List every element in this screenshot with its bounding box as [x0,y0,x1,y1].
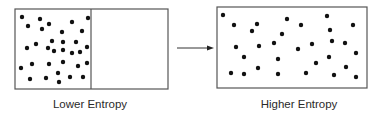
particle-dot [30,62,34,66]
particle-dot [343,41,347,45]
particle-dot [57,80,61,84]
particle-dot [47,22,51,26]
particle-dot [310,42,314,46]
particle-dot [276,57,280,61]
particle-dot [38,17,42,21]
particle-dot [296,47,300,51]
lower-entropy-label: Lower Entropy [30,98,150,110]
particle-dot [344,65,348,69]
particle-dot [20,15,24,19]
particle-dot [327,55,331,59]
particle-dot [242,55,246,59]
particle-dot [332,73,336,77]
particle-dot [50,39,54,43]
particle-dot [330,39,334,43]
particle-dot [80,29,84,33]
particle-dot [44,76,48,80]
particle-dot [46,46,50,50]
particle-dot [76,64,80,68]
particle-dot [68,75,72,79]
particle-dot [232,23,236,27]
particle-dot [56,71,60,75]
particle-dot [242,72,246,76]
particle-dot [19,66,23,70]
particle-dot [250,29,254,33]
particle-dot [70,51,74,55]
particle-dot [81,75,85,79]
right-container-box [217,7,367,88]
particle-dot [229,71,233,75]
particle-dot [74,40,78,44]
particle-dot [47,62,51,66]
particle-dot [299,23,303,27]
particle-dot [25,46,29,50]
particle-dot [255,22,259,26]
particle-dot [61,48,65,52]
particle-dot [304,71,308,75]
particle-dot [28,77,32,81]
particle-dot [52,49,56,53]
particle-dot [78,50,82,54]
particle-dot [314,61,318,65]
particle-dot [234,45,238,49]
particle-dot [40,27,44,31]
particle-dot [70,20,74,24]
particle-dot [276,72,280,76]
higher-entropy-label: Higher Entropy [239,98,359,110]
particle-dot [61,60,65,64]
particle-dot [351,23,355,27]
particle-dot [328,28,332,32]
particle-dot [354,75,358,79]
particle-dot [85,45,89,49]
particle-dot [354,51,358,55]
particle-dot [60,30,64,34]
particle-dot [61,40,65,44]
particle-dot [85,61,89,65]
particle-dot [221,13,225,17]
particle-dot [86,16,90,20]
particle-dot [26,24,30,28]
particle-dot [34,42,38,46]
particle-dot [285,17,289,21]
particle-dot [272,41,276,45]
arrow-right-icon [207,46,214,51]
particle-dot [325,14,329,18]
particle-dot [256,66,260,70]
particle-dot [257,44,261,48]
particle-dot [280,32,284,36]
